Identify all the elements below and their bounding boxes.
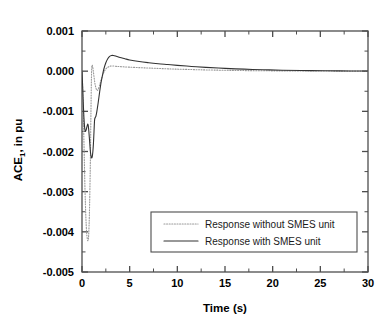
y-tick-label: -0.003 <box>43 186 74 198</box>
x-tick-label: 5 <box>127 277 133 289</box>
y-tick-label: 0.001 <box>46 25 74 37</box>
x-axis-title: Time (s) <box>203 302 247 314</box>
chart-canvas: 051015202530 0.0010.000-0.001-0.002-0.00… <box>0 0 392 324</box>
legend-label-1: Response without SMES unit <box>205 219 335 230</box>
x-tick-label: 20 <box>267 277 279 289</box>
y-tick-label: -0.005 <box>43 266 74 278</box>
x-tick-label: 25 <box>314 277 326 289</box>
x-tick-label: 15 <box>219 277 231 289</box>
y-tick-label: -0.001 <box>43 105 74 117</box>
legend-label-2: Response with SMES unit <box>205 236 321 247</box>
x-tick-label: 0 <box>79 277 85 289</box>
legend: Response without SMES unitResponse with … <box>151 212 357 252</box>
y-tick-label: -0.004 <box>43 226 75 238</box>
y-tick-label: 0.000 <box>46 65 74 77</box>
x-tick-label: 30 <box>362 277 374 289</box>
x-tick-label: 10 <box>171 277 183 289</box>
y-tick-label: -0.002 <box>43 146 74 158</box>
figure-container: 051015202530 0.0010.000-0.001-0.002-0.00… <box>0 0 392 324</box>
